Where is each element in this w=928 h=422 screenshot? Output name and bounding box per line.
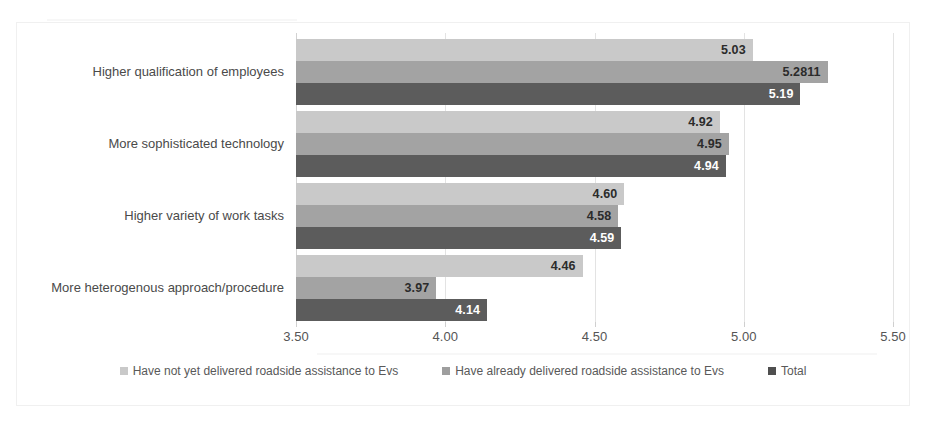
bar-row: 4.95 xyxy=(296,133,893,155)
category-label: More heterogenous approach/procedure xyxy=(51,255,284,321)
bar-value-label: 5.03 xyxy=(721,39,753,61)
gridline xyxy=(893,33,894,322)
bar-row: 4.60 xyxy=(296,183,893,205)
bar-row: 5.03 xyxy=(296,39,893,61)
bar-row: 4.14 xyxy=(296,299,893,321)
category-label: More sophisticated technology xyxy=(108,111,284,177)
legend-swatch-icon xyxy=(768,367,776,375)
bar[interactable] xyxy=(296,61,828,83)
bar-value-label: 4.92 xyxy=(688,111,720,133)
x-tick-mark xyxy=(595,322,596,327)
scan-artifact xyxy=(317,353,877,355)
chart-legend: Have not yet delivered roadside assistan… xyxy=(16,358,910,384)
x-axis: 3.504.004.505.005.50 xyxy=(296,322,893,348)
bar-value-label: 3.97 xyxy=(405,277,437,299)
bar[interactable] xyxy=(296,205,618,227)
bar-value-label: 4.95 xyxy=(697,133,729,155)
bar-row: 4.59 xyxy=(296,227,893,249)
bar-row: 5.19 xyxy=(296,83,893,105)
bar[interactable] xyxy=(296,133,729,155)
bar[interactable] xyxy=(296,111,720,133)
bar-row: 4.46 xyxy=(296,255,893,277)
legend-swatch-icon xyxy=(442,367,450,375)
category-label: Higher qualification of employees xyxy=(93,39,285,105)
bar-row: 4.58 xyxy=(296,205,893,227)
x-tick-mark xyxy=(445,322,446,327)
bar[interactable] xyxy=(296,227,621,249)
bar-value-label: 4.14 xyxy=(455,299,487,321)
x-tick-mark xyxy=(893,322,894,327)
category-label: Higher variety of work tasks xyxy=(124,183,284,249)
bar-value-label: 4.60 xyxy=(593,183,625,205)
bar-value-label: 4.94 xyxy=(694,155,726,177)
bar[interactable] xyxy=(296,155,726,177)
bar-value-label: 4.46 xyxy=(551,255,583,277)
bar-value-label: 5.19 xyxy=(769,83,801,105)
bar[interactable] xyxy=(296,39,753,61)
legend-label: Have not yet delivered roadside assistan… xyxy=(133,364,398,378)
plot-area: 5.035.28115.194.924.954.944.604.584.594.… xyxy=(296,33,893,322)
legend-item[interactable]: Have not yet delivered roadside assistan… xyxy=(120,364,398,378)
x-tick-label: 5.50 xyxy=(880,329,905,344)
bar-row: 4.92 xyxy=(296,111,893,133)
bar-row: 4.94 xyxy=(296,155,893,177)
x-tick-label: 4.50 xyxy=(582,329,607,344)
bar[interactable] xyxy=(296,83,800,105)
x-tick-mark xyxy=(744,322,745,327)
scan-artifact xyxy=(47,19,297,21)
x-tick-mark xyxy=(296,322,297,327)
bar-row: 5.2811 xyxy=(296,61,893,83)
x-tick-label: 4.00 xyxy=(433,329,458,344)
bar-group: 5.035.28115.19 xyxy=(296,39,893,105)
bar-value-label: 5.2811 xyxy=(783,61,828,83)
legend-item[interactable]: Have already delivered roadside assistan… xyxy=(442,364,724,378)
x-tick-label: 3.50 xyxy=(283,329,308,344)
bar-group: 4.463.974.14 xyxy=(296,255,893,321)
bar-value-label: 4.58 xyxy=(587,205,619,227)
bar-value-label: 4.59 xyxy=(590,227,622,249)
legend-item[interactable]: Total xyxy=(768,364,806,378)
legend-label: Total xyxy=(781,364,806,378)
bar[interactable] xyxy=(296,255,583,277)
category-axis: Higher qualification of employeesMore so… xyxy=(20,33,290,322)
x-tick-label: 5.00 xyxy=(731,329,756,344)
bar[interactable] xyxy=(296,183,624,205)
legend-label: Have already delivered roadside assistan… xyxy=(455,364,724,378)
bar-group: 4.924.954.94 xyxy=(296,111,893,177)
bar-row: 3.97 xyxy=(296,277,893,299)
legend-swatch-icon xyxy=(120,367,128,375)
bar-group: 4.604.584.59 xyxy=(296,183,893,249)
